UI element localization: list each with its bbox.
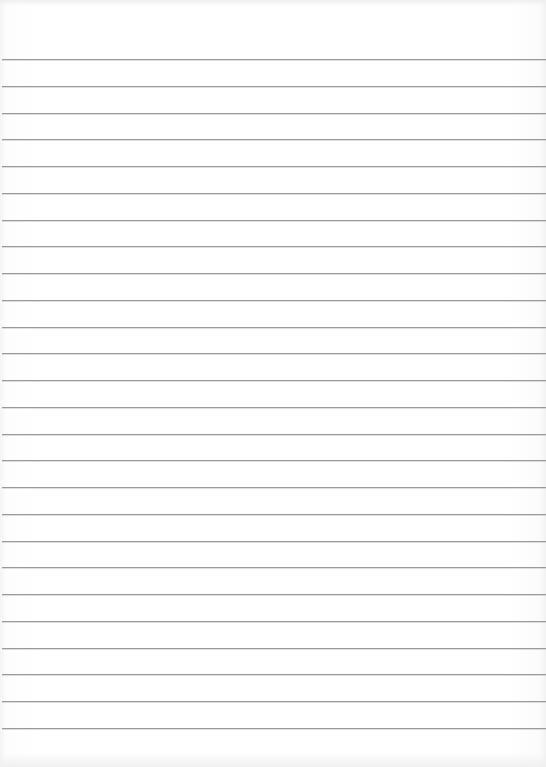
bottom-edge-shadow — [0, 753, 546, 767]
ruled-line — [2, 648, 546, 649]
ruled-line — [2, 407, 546, 408]
ruled-line — [2, 728, 546, 729]
ruled-line — [2, 327, 546, 328]
ruled-line — [2, 567, 546, 568]
ruled-line — [2, 166, 546, 167]
ruled-line — [2, 220, 546, 221]
ruled-line — [2, 701, 546, 702]
ruled-line — [2, 674, 546, 675]
ruled-line — [2, 246, 546, 247]
ruled-line — [2, 487, 546, 488]
ruled-line — [2, 59, 546, 60]
ruled-line — [2, 434, 546, 435]
ruled-line — [2, 86, 546, 87]
ruled-line — [2, 300, 546, 301]
ruled-line — [2, 113, 546, 114]
top-edge-shadow — [0, 0, 546, 6]
ruled-line — [2, 273, 546, 274]
ruled-line — [2, 594, 546, 595]
ruled-line — [2, 380, 546, 381]
ruled-line — [2, 514, 546, 515]
ruled-line — [2, 541, 546, 542]
ruled-line — [2, 460, 546, 461]
ruled-line — [2, 139, 546, 140]
ruled-line — [2, 621, 546, 622]
ruled-line — [2, 353, 546, 354]
lined-paper-sheet — [0, 0, 546, 767]
ruled-line — [2, 193, 546, 194]
